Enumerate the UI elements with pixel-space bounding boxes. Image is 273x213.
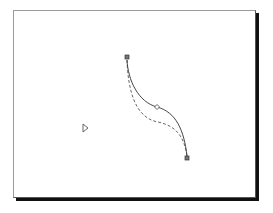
triangle-cursor-icon (83, 124, 88, 132)
mid-node-diamond-handle[interactable] (155, 105, 160, 110)
end-node-handle[interactable] (185, 156, 189, 160)
drawing-canvas[interactable] (0, 0, 273, 213)
start-node-handle[interactable] (125, 55, 129, 59)
